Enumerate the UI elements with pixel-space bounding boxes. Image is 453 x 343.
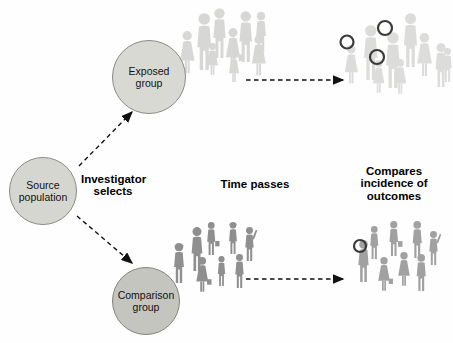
person-icon-man (213, 8, 225, 58)
outcome-marker-circle (378, 21, 392, 35)
node-comparison-group: Comparison group (112, 267, 180, 335)
person-icon-man (417, 254, 426, 291)
label-compares-incidence-of-outcomes: Compares incidence of outcomes (354, 165, 434, 202)
person-icon-man (443, 48, 451, 82)
person-icon-man (235, 254, 243, 288)
person-icon-man (240, 11, 252, 62)
outcome-marker-circle (341, 36, 354, 49)
node-source-population: Source population (9, 157, 77, 225)
person-icon-man-hat (174, 243, 184, 283)
label-investigator-selects: Investigator selects (81, 173, 145, 198)
cohort-study-diagram: Source population Exposed group Comparis… (0, 0, 453, 343)
node-exposed-group-label: Exposed group (129, 65, 170, 90)
comparison-cohort-outcomes (358, 221, 441, 291)
label-time-passes: Time passes (215, 178, 295, 190)
arrow-source-to-comparison (77, 216, 132, 263)
person-icon-man-wave (245, 227, 257, 261)
person-icon-man (370, 226, 378, 259)
person-icon-man-wave (429, 231, 441, 265)
person-icon-woman (417, 33, 432, 76)
exposed-cohort-start (180, 8, 266, 82)
person-icon-man-hat (229, 222, 237, 254)
node-source-population-label: Source population (19, 179, 67, 204)
person-icon-man (404, 13, 417, 67)
comparison-cohort-start (174, 222, 257, 292)
arrow-source-to-exposed (79, 112, 132, 166)
person-icon-man-briefcase (207, 222, 219, 255)
person-icon-woman (345, 45, 358, 83)
person-icon-woman-bag (378, 257, 393, 291)
person-icon-man (358, 240, 368, 282)
person-icon-man (192, 227, 203, 271)
person-icon-man (218, 256, 225, 286)
person-icon-man-briefcase (389, 221, 402, 256)
person-icon-man (413, 221, 422, 258)
exposed-cohort-outcomes (345, 13, 452, 94)
node-exposed-group: Exposed group (112, 40, 186, 114)
person-icon-woman (398, 252, 410, 286)
node-comparison-group-label: Comparison group (118, 289, 175, 314)
